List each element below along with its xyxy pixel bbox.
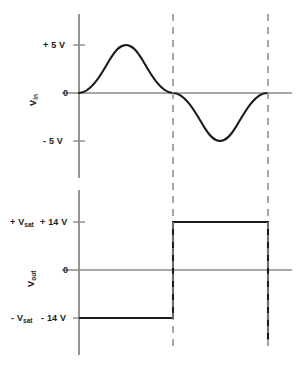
- top-plot-axis-label-main: V: [28, 100, 38, 106]
- bottom-sat-label-neg: - Vsat: [11, 313, 33, 324]
- waveform-figure: + 5 V 0 - 5 V Vin + Vsat + 14 V 0 - Vsat…: [0, 0, 308, 369]
- bottom-tick-label-pos14: + 14 V: [40, 217, 67, 227]
- top-tick-label-neg5: - 5 V: [43, 136, 63, 146]
- top-plot-axis-label-sub: in: [32, 94, 39, 100]
- bottom-plot-axis-label-sub: out: [30, 271, 37, 281]
- bottom-plot-axis-label: Vout: [26, 271, 37, 287]
- top-tick-label-zero: 0: [63, 88, 68, 98]
- bottom-sat-label-pos-main: + V: [10, 217, 24, 227]
- bottom-sat-label-neg-main: - V: [11, 313, 23, 323]
- bottom-tick-label-neg14: - 14 V: [41, 313, 66, 323]
- bottom-sat-label-pos: + Vsat: [10, 217, 34, 228]
- bottom-sat-label-neg-sub: sat: [23, 317, 32, 324]
- bottom-sat-label-pos-sub: sat: [24, 221, 33, 228]
- top-tick-label-pos5: + 5 V: [43, 40, 65, 50]
- bottom-plot-axis-label-main: V: [26, 281, 36, 287]
- top-plot-axis-label: Vin: [28, 94, 39, 106]
- bottom-tick-label-zero: 0: [63, 265, 68, 275]
